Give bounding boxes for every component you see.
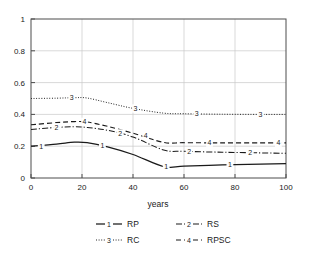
legend-label: RPSC: [207, 235, 231, 245]
y-tick-label: 0.6: [14, 79, 26, 88]
series-marker-label: 4: [208, 139, 212, 146]
series-marker-label: 1: [164, 163, 168, 170]
figure-container: 1111222233334444 020406080100 00.20.40.6…: [0, 0, 312, 255]
x-tick-label: 40: [129, 183, 138, 192]
series-marker-label: 3: [195, 110, 199, 117]
legend-marker-number: 3: [107, 237, 111, 244]
x-tick-label: 20: [78, 183, 87, 192]
legend-entry-rc[interactable]: 3RC: [96, 235, 139, 245]
series-marker-label: 4: [276, 139, 280, 146]
chart-legend: 1RP2RS3RC4RPSC: [96, 219, 231, 245]
series-marker-label: 3: [259, 111, 263, 118]
y-tick-label: 0.8: [14, 47, 26, 56]
y-tick-labels: 00.20.40.60.81: [14, 15, 26, 183]
series-marker-label: 2: [248, 149, 252, 156]
y-tick-label: 0.2: [14, 142, 26, 151]
legend-label: RC: [127, 235, 139, 245]
series-marker-label: 3: [70, 94, 74, 101]
series-marker-label: 4: [144, 132, 148, 139]
series-marker-label: 1: [228, 161, 232, 168]
series-marker-label: 3: [134, 105, 138, 112]
x-tick-label: 0: [29, 183, 34, 192]
series-marker-label: 1: [100, 142, 104, 149]
x-tick-label: 60: [180, 183, 189, 192]
y-tick-label: 0.4: [14, 110, 26, 119]
series-marker-label: 2: [55, 124, 59, 131]
series-marker-label: 2: [118, 130, 122, 137]
legend-marker-number: 2: [187, 221, 191, 228]
legend-label: RS: [207, 219, 219, 229]
legend-marker-number: 1: [107, 221, 111, 228]
y-tick-label: 1: [21, 15, 26, 24]
x-tick-label: 100: [279, 183, 293, 192]
legend-label: RP: [127, 219, 139, 229]
legend-marker-number: 4: [187, 237, 191, 244]
series-marker-label: 4: [83, 118, 87, 125]
series-marker-label: 1: [39, 143, 43, 150]
series-marker-label: 2: [187, 148, 191, 155]
x-axis-label: years: [148, 199, 169, 209]
y-tick-label: 0: [21, 174, 26, 183]
x-tick-label: 80: [231, 183, 240, 192]
line-chart: 1111222233334444 020406080100 00.20.40.6…: [0, 0, 312, 255]
legend-entry-rp[interactable]: 1RP: [96, 219, 139, 229]
legend-entry-rs[interactable]: 2RS: [176, 219, 219, 229]
legend-entry-rpsc[interactable]: 4RPSC: [176, 235, 231, 245]
x-tick-labels: 020406080100: [29, 183, 293, 192]
